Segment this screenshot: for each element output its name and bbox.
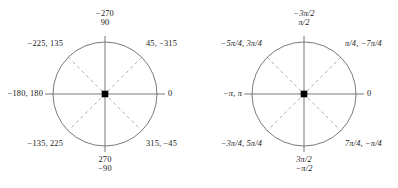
- label-lower-left-radians: −3π/4, 5π/4: [221, 139, 262, 148]
- angle-reference-figure: −270 90 −225, 135 45, −315 −180, 180 0 −…: [0, 0, 398, 188]
- label-bottom-inner-degrees: 270: [98, 155, 112, 164]
- label-left-radians: −π, π: [223, 89, 242, 98]
- label-upper-right-radians: π/4, −7π/4: [345, 39, 382, 48]
- label-lower-left-degrees: −135, 225: [28, 139, 63, 148]
- origin-marker: [102, 91, 109, 98]
- label-bottom-degrees: 270 −90: [98, 155, 112, 173]
- label-lower-right-degrees: 315, −45: [146, 139, 177, 148]
- label-top-inner-radians: π/2: [293, 18, 314, 27]
- unit-circle-radians: −3π/2 π/2 −5π/4, 3π/4 π/4, −7π/4 −π, π 0…: [199, 0, 398, 188]
- label-top-outer-degrees: −270: [96, 9, 114, 18]
- label-top-outer-radians: −3π/2: [293, 9, 314, 18]
- label-bottom-inner-radians: 3π/2: [296, 155, 313, 164]
- label-upper-right-degrees: 45, −315: [146, 39, 177, 48]
- label-right-degrees: 0: [168, 89, 172, 98]
- label-bottom-radians: 3π/2 −π/2: [296, 155, 313, 173]
- label-bottom-outer-degrees: −90: [98, 164, 112, 173]
- label-upper-left-radians: −5π/4, 3π/4: [221, 39, 262, 48]
- origin-marker: [301, 91, 308, 98]
- label-upper-left-degrees: −225, 135: [28, 39, 63, 48]
- label-lower-right-radians: 7π/4, −π/4: [345, 139, 382, 148]
- label-left-degrees: −180, 180: [8, 89, 43, 98]
- label-top-degrees: −270 90: [96, 9, 114, 27]
- label-top-inner-degrees: 90: [96, 18, 114, 27]
- label-right-radians: 0: [367, 89, 371, 98]
- label-top-radians: −3π/2 π/2: [293, 9, 314, 27]
- unit-circle-degrees: −270 90 −225, 135 45, −315 −180, 180 0 −…: [0, 0, 199, 188]
- label-bottom-outer-radians: −π/2: [296, 164, 313, 173]
